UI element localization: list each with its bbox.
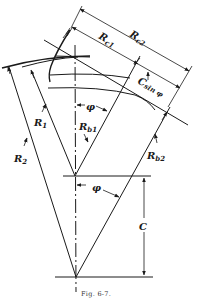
- label-c: C: [139, 221, 147, 232]
- label-rc2: Rc2: [126, 28, 149, 49]
- r2-leader: [24, 138, 27, 146]
- gear-geometry-diagram: Rc2 Rc1 Csin φ R1 R2 Rb1 Rb2 φ φ C Fig. …: [0, 0, 201, 300]
- label-r2: R2: [13, 153, 27, 166]
- tooth-lower-edge: [48, 88, 155, 110]
- center-line: [75, 45, 76, 292]
- rb1-leader: [84, 134, 88, 142]
- r1-leader: [42, 104, 46, 112]
- rb2-leader: [155, 134, 157, 143]
- ext-line-mid: [134, 58, 140, 65]
- tooth-upper-edge: [50, 74, 130, 78]
- label-rb1: Rb1: [78, 121, 97, 134]
- label-csinphi: Csin φ: [136, 75, 167, 99]
- ext-line-right: [168, 66, 192, 107]
- r1-arrowhead: [31, 70, 34, 78]
- phi-top-arrow-right: [96, 106, 107, 111]
- phi-bottom-arrow-right: [103, 190, 119, 197]
- figure-caption: Fig. 6-7.: [81, 290, 111, 298]
- rb2-arrowhead: [162, 112, 167, 120]
- outer-arc: [2, 56, 90, 68]
- label-phi-bottom: φ: [92, 182, 101, 193]
- label-r1: R1: [33, 117, 47, 130]
- label-phi-top: φ: [86, 101, 95, 112]
- label-rc1: Rc1: [95, 30, 117, 50]
- label-rb2: Rb2: [146, 150, 165, 163]
